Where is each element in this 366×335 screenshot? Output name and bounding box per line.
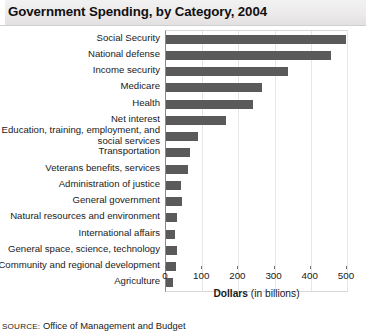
category-label: Natural resources and environment [10, 211, 160, 221]
gridline-400 [311, 31, 312, 291]
bar [166, 100, 253, 109]
x-tick-100 [201, 266, 202, 269]
x-tick-label-100: 100 [193, 270, 209, 281]
bar [166, 213, 177, 222]
bar [166, 51, 331, 60]
x-tick-500 [346, 266, 347, 269]
bar [166, 165, 188, 174]
x-axis-title-normal: (in billions) [248, 288, 300, 299]
category-label: Income security [93, 65, 160, 75]
x-axis-title: Dollars (in billions) [165, 288, 348, 299]
category-label: General space, science, technology [8, 244, 160, 254]
plot-area [165, 30, 348, 292]
bar [166, 35, 346, 44]
category-label: Transportation [98, 146, 160, 156]
category-labels: Social SecurityNational defenseIncome se… [0, 30, 163, 292]
category-label: Veterans benefits, services [45, 163, 160, 173]
bar [166, 132, 198, 141]
bar [166, 116, 226, 125]
x-tick-300 [274, 266, 275, 269]
bar [166, 67, 288, 76]
category-label: Net interest [111, 114, 160, 124]
page-title: Government Spending, by Category, 2004 [8, 4, 267, 19]
category-label: General government [73, 195, 160, 205]
chart-figure: Government Spending, by Category, 2004 S… [0, 0, 366, 335]
x-tick-label-0: 0 [162, 270, 167, 281]
source-text: Office of Management and Budget [40, 320, 185, 331]
category-label: Medicare [121, 81, 160, 91]
title-band: Government Spending, by Category, 2004 [0, 0, 366, 26]
category-label: Administration of justice [59, 179, 160, 189]
bar [166, 230, 175, 239]
bar [166, 197, 182, 206]
bar [166, 246, 177, 255]
x-tick-label-200: 200 [229, 270, 245, 281]
category-label: Agriculture [114, 276, 160, 286]
category-label: National defense [88, 49, 160, 59]
x-tick-label-500: 500 [338, 270, 354, 281]
category-label: Health [132, 98, 160, 108]
x-tick-400 [310, 266, 311, 269]
source-note: SOURCE: Office of Management and Budget [2, 320, 186, 331]
category-label: Education, training, employment, and soc… [0, 125, 160, 146]
gridline-500 [347, 31, 348, 291]
category-label: Community and regional development [0, 260, 160, 270]
x-tick-label-400: 400 [302, 270, 318, 281]
bar [166, 148, 190, 157]
source-prefix: SOURCE: [2, 322, 40, 331]
x-tick-label-300: 300 [265, 270, 281, 281]
x-tick-0 [165, 266, 166, 269]
x-axis-title-bold: Dollars [213, 288, 248, 299]
category-label: Social Security [97, 33, 160, 43]
bar [166, 83, 262, 92]
x-tick-200 [237, 266, 238, 269]
bar [166, 181, 181, 190]
category-label: International affairs [79, 228, 160, 238]
